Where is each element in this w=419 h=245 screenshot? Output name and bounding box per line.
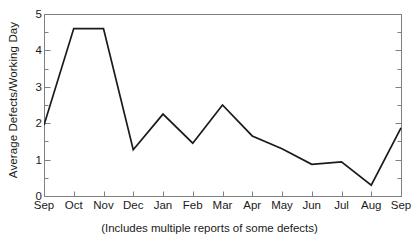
data-series-line: [44, 29, 401, 186]
x-tick-label: Oct: [65, 199, 83, 211]
y-tick-label: 2: [28, 117, 42, 129]
x-tick-label: Jul: [334, 199, 349, 211]
x-tick-label: Jun: [302, 199, 321, 211]
x-tick-label: Feb: [183, 199, 203, 211]
x-tick-label: Jan: [154, 199, 173, 211]
y-tick-label: 3: [28, 81, 42, 93]
plot-area: [44, 14, 402, 197]
y-tick-label: 5: [28, 8, 42, 20]
plot-svg: [44, 14, 402, 197]
x-tick-label: Sep: [391, 199, 411, 211]
y-tick-label: 1: [28, 154, 42, 166]
x-tick-label: Apr: [243, 199, 261, 211]
chart-caption: (Includes multiple reports of some defec…: [0, 222, 419, 234]
y-axis-tick-labels: 012345: [26, 14, 42, 197]
y-tick-label: 4: [28, 44, 42, 56]
x-axis-tick-labels: SepOctNovDecJanFebMarAprMayJunJulAugSep: [44, 199, 402, 215]
x-tick-label: Mar: [213, 199, 233, 211]
x-tick-label: Dec: [123, 199, 143, 211]
x-tick-label: Sep: [34, 199, 54, 211]
defects-line-chart: Average Defects/Working Day 012345 SepOc…: [0, 0, 419, 245]
x-tick-label: Nov: [93, 199, 113, 211]
x-tick-label: Aug: [361, 199, 381, 211]
y-axis-title-text: Average Defects/Working Day: [7, 22, 19, 178]
x-tick-label: May: [271, 199, 293, 211]
y-axis-title: Average Defects/Working Day: [0, 0, 26, 200]
